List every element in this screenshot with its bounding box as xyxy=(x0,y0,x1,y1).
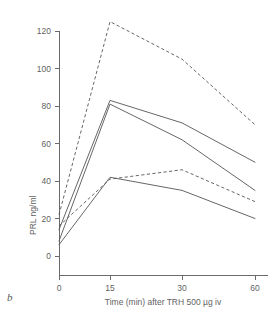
y-tick-label-80: 80 xyxy=(42,101,52,111)
y-tick-label-120: 120 xyxy=(37,26,51,36)
series-line-series-5-solid-lower xyxy=(59,177,255,245)
x-tick-label-0: 0 xyxy=(57,283,62,293)
series-line-series-3-solid-second xyxy=(59,104,255,241)
y-axis-tick-labels: 020406080100120 xyxy=(37,26,51,261)
prl-trh-line-chart: 020406080100120 0153060 Time (min) after… xyxy=(0,0,276,323)
y-tick-label-20: 20 xyxy=(42,214,52,224)
y-tick-label-100: 100 xyxy=(37,64,51,74)
y-axis-title: PRL ng/ml xyxy=(28,196,38,235)
data-series-group xyxy=(59,22,255,245)
x-axis-tick-labels: 0153060 xyxy=(57,283,260,293)
series-line-series-4-dashed-lower xyxy=(59,170,255,226)
figure-panel: b 020406080100120 0153060 Time (min) aft… xyxy=(0,0,276,323)
x-axis-title: Time (min) after TRH 500 µg iv xyxy=(105,297,222,307)
x-tick-label-30: 30 xyxy=(177,283,187,293)
chart-axes xyxy=(59,31,268,275)
panel-letter-label: b xyxy=(7,292,13,303)
y-tick-label-60: 60 xyxy=(42,139,52,149)
x-axis-ticks xyxy=(59,275,255,280)
y-tick-label-40: 40 xyxy=(42,176,52,186)
series-line-series-2-solid-upper xyxy=(59,100,255,229)
x-tick-label-15: 15 xyxy=(105,283,115,293)
y-axis-ticks xyxy=(55,31,59,256)
y-tick-label-0: 0 xyxy=(46,251,51,261)
x-tick-label-60: 60 xyxy=(250,283,260,293)
